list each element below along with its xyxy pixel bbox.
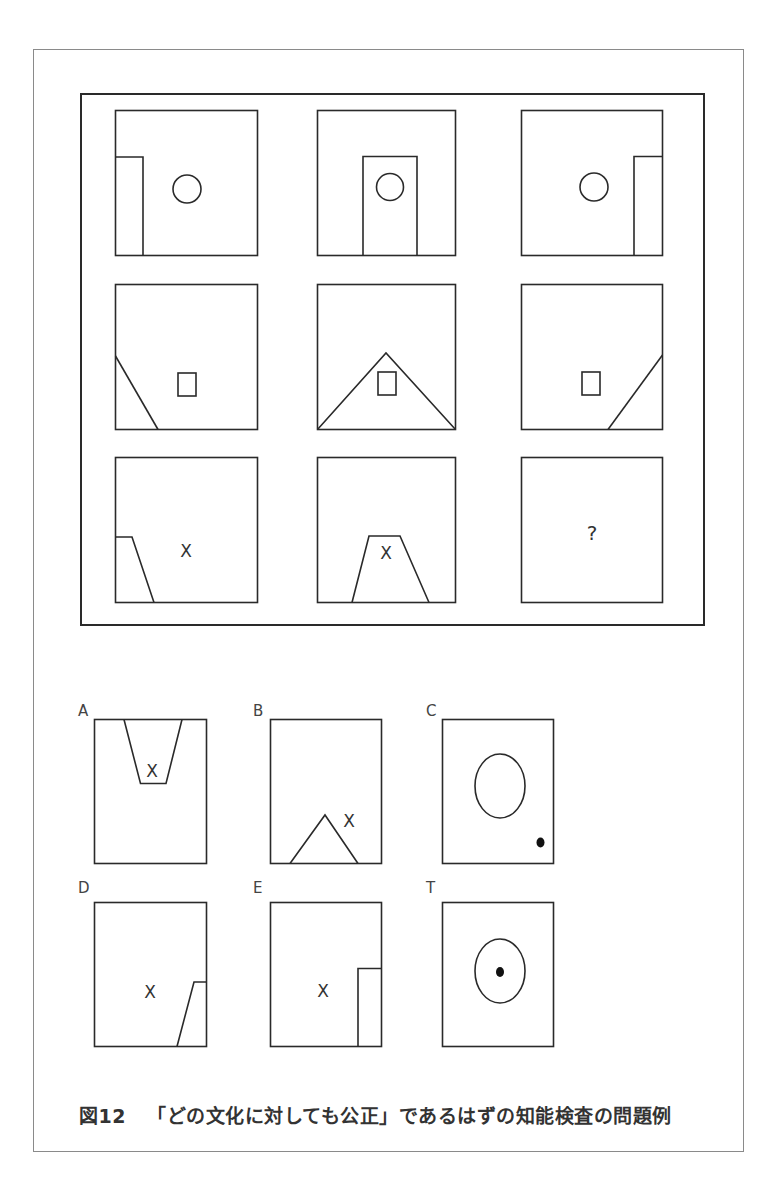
x-mark-option-b: X	[343, 811, 355, 831]
matrix-cell-r2c1	[116, 285, 258, 430]
matrix-cell-r1c3	[522, 111, 663, 256]
x-mark-r3c2: X	[380, 543, 392, 563]
x-mark-option-e: X	[317, 981, 329, 1001]
matrix-cell-r3c2	[318, 458, 456, 603]
option-label-a: A	[78, 704, 88, 719]
option-t[interactable]	[443, 903, 554, 1047]
question-mark: ?	[587, 521, 598, 545]
figure-caption: 図12 「どの文化に対しても公正」であるはずの知能検査の問題例	[79, 1101, 672, 1128]
option-label-b: B	[253, 704, 263, 719]
matrix-cell-r1c2	[318, 111, 456, 256]
option-label-c: C	[426, 704, 436, 719]
matrix-cell-r2c3	[522, 285, 663, 430]
x-mark-option-d: X	[144, 982, 156, 1002]
matrix-cell-r1c1	[116, 111, 258, 256]
option-d[interactable]	[95, 903, 207, 1047]
matrix-cell-r3c1	[116, 458, 258, 603]
matrix-cell-r2c2	[318, 285, 456, 430]
option-e[interactable]	[271, 903, 382, 1047]
option-b[interactable]	[271, 720, 382, 864]
option-label-e: E	[253, 881, 262, 896]
x-mark-option-a: X	[146, 761, 158, 781]
x-mark-r3c1: X	[180, 541, 192, 561]
figure-drawing: X X X X X X ?	[0, 0, 782, 1185]
option-c[interactable]	[443, 720, 554, 864]
option-a[interactable]	[95, 720, 207, 864]
caption-text: 「どの文化に対しても公正」であるはずの知能検査の問題例	[147, 1105, 672, 1127]
figure-number: 図12	[79, 1105, 126, 1127]
option-label-t: T	[426, 881, 435, 896]
option-label-d: D	[78, 881, 90, 896]
